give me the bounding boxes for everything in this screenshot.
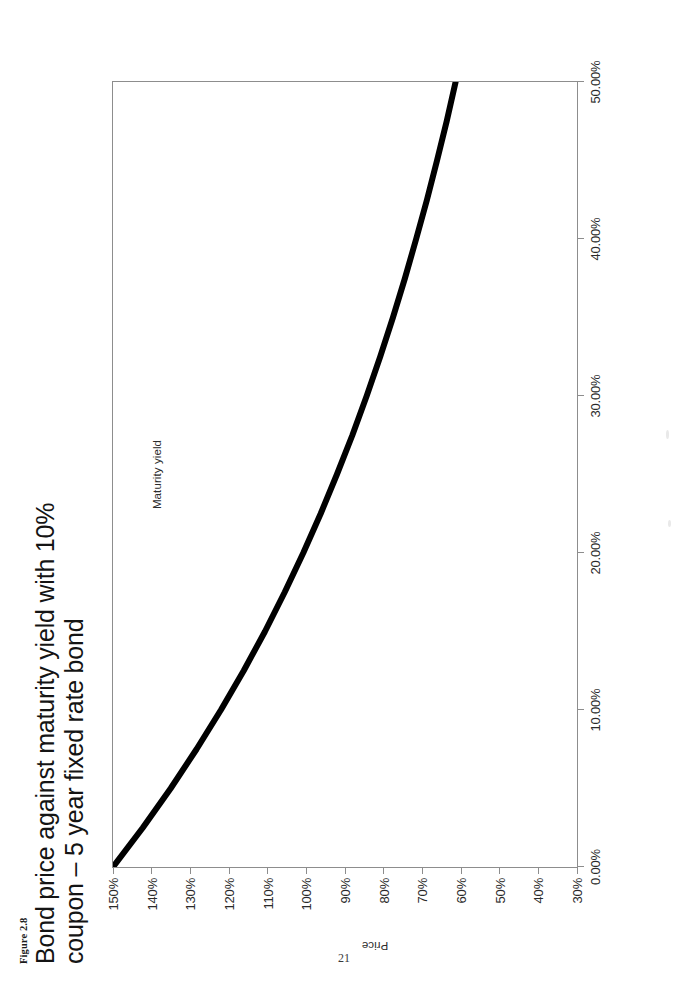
y-tick-mark <box>190 867 191 874</box>
y-tick-mark <box>538 867 539 874</box>
y-tick-mark <box>345 867 346 874</box>
y-tick-label: 100% <box>299 878 314 910</box>
y-tick-mark <box>229 867 230 874</box>
y-tick-mark <box>422 867 423 874</box>
figure-rotated-container: Figure 2.8 Bond price against maturity y… <box>0 0 688 986</box>
chart: Price 30%40%50%60%70%80%90%100%110%120%1… <box>110 24 640 964</box>
plot-frame: 30%40%50%60%70%80%90%100%110%120%130%140… <box>112 81 578 868</box>
y-tick-mark <box>306 867 307 874</box>
y-tick-label: 140% <box>144 878 159 910</box>
x-tick-label: 40.00% <box>588 218 603 261</box>
x-tick-label: 0.00% <box>588 849 603 885</box>
y-tick-label: 80% <box>376 878 391 903</box>
x-tick-label: 30.00% <box>588 375 603 418</box>
x-tick-label: 10.00% <box>588 689 603 732</box>
y-tick-mark <box>577 867 578 874</box>
y-tick-label: 40% <box>531 878 546 903</box>
figure-caption: Figure 2.8 Bond price against maturity y… <box>18 364 89 964</box>
scanned-page: Figure 2.8 Bond price against maturity y… <box>0 0 688 986</box>
x-tick-mark <box>577 396 584 397</box>
page-number: 21 <box>0 951 688 966</box>
y-tick-label: 30% <box>570 878 585 903</box>
x-tick-mark <box>577 553 584 554</box>
y-tick-mark <box>113 867 114 874</box>
x-axis-title: Maturity yield <box>151 82 163 867</box>
y-tick-label: 50% <box>492 878 507 903</box>
bond-price-curve <box>113 82 577 867</box>
figure-number: Figure 2.8 <box>18 364 30 964</box>
x-tick-mark <box>577 239 584 240</box>
x-tick-label: 20.00% <box>588 532 603 575</box>
y-tick-label: 70% <box>415 878 430 903</box>
y-tick-mark <box>499 867 500 874</box>
x-tick-mark <box>577 867 584 868</box>
y-tick-label: 150% <box>106 878 121 910</box>
y-tick-mark <box>267 867 268 874</box>
y-tick-mark <box>383 867 384 874</box>
x-tick-mark <box>577 710 584 711</box>
x-tick-label: 50.00% <box>588 61 603 104</box>
y-tick-label: 60% <box>454 878 469 903</box>
y-tick-label: 90% <box>338 878 353 903</box>
y-tick-mark <box>461 867 462 874</box>
y-tick-label: 130% <box>183 878 198 910</box>
y-tick-label: 110% <box>260 878 275 909</box>
figure-title: Bond price against maturity yield with 1… <box>31 424 90 964</box>
x-tick-mark <box>577 82 584 83</box>
y-tick-label: 120% <box>222 878 237 910</box>
y-tick-mark <box>151 867 152 874</box>
price-curve-line <box>113 82 456 867</box>
